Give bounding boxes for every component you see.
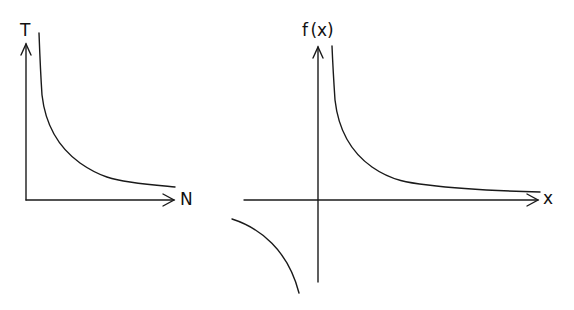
diagram-canvas (0, 0, 574, 310)
x-axis-label: x (543, 190, 553, 207)
hyperbola-branch-negative (232, 219, 299, 293)
fx-axis-label: f (x) (302, 22, 334, 39)
hyperbola-branch-positive (332, 46, 540, 192)
t-axis-label: T (20, 22, 30, 39)
right-diagram (232, 46, 540, 293)
t-n-curve (39, 33, 175, 187)
left-diagram (21, 33, 175, 206)
n-axis-label: N (180, 191, 193, 208)
